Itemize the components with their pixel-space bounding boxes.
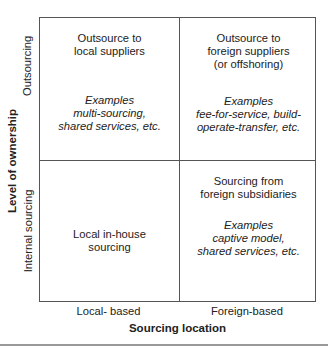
x-axis-title: Sourcing location — [39, 322, 316, 334]
quadrant-title: Outsource to local suppliers — [40, 32, 179, 58]
quadrant-examples: Examples fee-for-service, build- operate… — [180, 95, 317, 134]
row-label-internal-sourcing: Internal sourcing — [22, 189, 34, 273]
quadrant-title: Local in-house sourcing — [40, 228, 179, 254]
column-label-foreign-based: Foreign-based — [178, 305, 316, 317]
bottom-divider — [0, 344, 328, 346]
quadrant-title: Sourcing from foreign subsidiaries — [180, 175, 317, 201]
row-label-outsourcing: Outsourcing — [21, 36, 33, 96]
quadrant-examples: Examples multi-sourcing, shared services… — [40, 94, 179, 133]
horizontal-divider — [40, 160, 315, 161]
quadrant-title: Outsource to foreign suppliers (or offsh… — [180, 32, 317, 71]
column-label-local-based: Local- based — [39, 305, 178, 317]
quadrant-outsource-foreign: Outsource to foreign suppliers (or offsh… — [180, 32, 317, 134]
quadrant-outsource-local: Outsource to local suppliers Examples mu… — [40, 32, 179, 133]
y-axis-title: Level of ownership — [6, 106, 18, 216]
quadrant-foreign-subsidiaries: Sourcing from foreign subsidiaries Examp… — [180, 175, 317, 258]
quadrant-examples: Examples captive model, shared services,… — [180, 219, 317, 258]
quadrant-grid: Outsource to local suppliers Examples mu… — [39, 17, 316, 302]
quadrant-local-in-house: Local in-house sourcing — [40, 228, 179, 254]
